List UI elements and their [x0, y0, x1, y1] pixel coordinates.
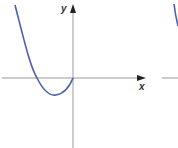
y-axis-arrow-icon	[70, 4, 76, 13]
y-axis-label: y	[61, 3, 67, 14]
x-axis-label: x	[139, 81, 145, 92]
graph-canvas	[0, 0, 178, 148]
function-curve	[15, 5, 73, 95]
adjacent-curve	[174, 4, 178, 26]
